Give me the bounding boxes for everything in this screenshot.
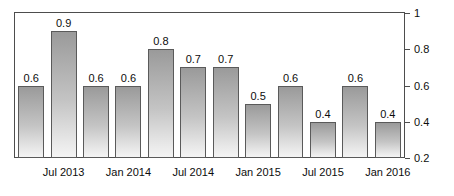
bar-1[interactable]: 0.6 <box>18 13 44 158</box>
bar-rect <box>180 67 206 158</box>
bar-12[interactable]: 0.4 <box>375 13 401 158</box>
x-axis: Jul 2013Jan 2014Jul 2014Jan 2015Jul 2015… <box>0 158 454 196</box>
bar-rect <box>51 31 77 158</box>
y-tick-mark-3 <box>405 122 410 123</box>
bar-rect <box>83 86 109 159</box>
x-tick-label-4: Jul 2015 <box>302 166 344 179</box>
bar-9[interactable]: 0.6 <box>278 13 304 158</box>
bar-rect <box>115 86 141 159</box>
bar-2[interactable]: 0.9 <box>51 13 77 158</box>
bar-chart: 0.60.90.60.60.80.70.70.50.60.40.60.4 10.… <box>0 0 454 196</box>
x-tick-label-0: Jul 2013 <box>43 166 85 179</box>
y-tick-label-3: 0.4 <box>414 116 429 128</box>
bar-6[interactable]: 0.7 <box>180 13 206 158</box>
y-tick-mark-0 <box>405 13 410 14</box>
bar-rect <box>278 86 304 159</box>
bar-rect <box>310 122 336 158</box>
bar-5[interactable]: 0.8 <box>148 13 174 158</box>
bars-layer: 0.60.90.60.60.80.70.70.50.60.40.60.4 <box>15 13 404 158</box>
bar-rect <box>148 49 174 158</box>
bar-rect <box>375 122 401 158</box>
x-tick-label-3: Jan 2015 <box>235 166 280 179</box>
y-tick-mark-2 <box>405 86 410 87</box>
y-tick-label-2: 0.6 <box>414 80 429 92</box>
y-tick-label-1: 0.8 <box>414 43 429 55</box>
x-tick-label-5: Jan 2016 <box>365 166 410 179</box>
bar-rect <box>245 104 271 158</box>
y-tick-mark-1 <box>405 49 410 50</box>
bar-rect <box>213 67 239 158</box>
bar-10[interactable]: 0.4 <box>310 13 336 158</box>
bar-rect <box>18 86 44 159</box>
bar-3[interactable]: 0.6 <box>83 13 109 158</box>
bar-8[interactable]: 0.5 <box>245 13 271 158</box>
bar-rect <box>342 86 368 159</box>
x-tick-label-1: Jan 2014 <box>106 166 151 179</box>
y-tick-label-0: 1 <box>414 7 420 19</box>
bar-11[interactable]: 0.6 <box>342 13 368 158</box>
bar-7[interactable]: 0.7 <box>213 13 239 158</box>
x-tick-label-2: Jul 2014 <box>172 166 214 179</box>
